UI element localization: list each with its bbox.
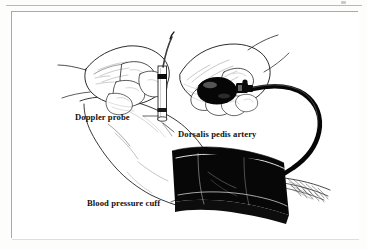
frame-shadow — [12, 239, 359, 240]
label-doppler-probe: Doppler probe — [75, 112, 130, 122]
scan-speck — [341, 1, 346, 4]
label-dorsalis-pedis-artery: Dorsalis pedis artery — [178, 129, 256, 139]
figure-labels: Doppler probe Dorsalis pedis artery Bloo… — [12, 12, 359, 239]
label-blood-pressure-cuff: Blood pressure cuff — [87, 198, 160, 208]
figure-frame: Doppler probe Dorsalis pedis artery Bloo… — [11, 11, 358, 238]
scanned-page: Doppler probe Dorsalis pedis artery Bloo… — [0, 0, 367, 249]
page-rule — [6, 5, 362, 6]
